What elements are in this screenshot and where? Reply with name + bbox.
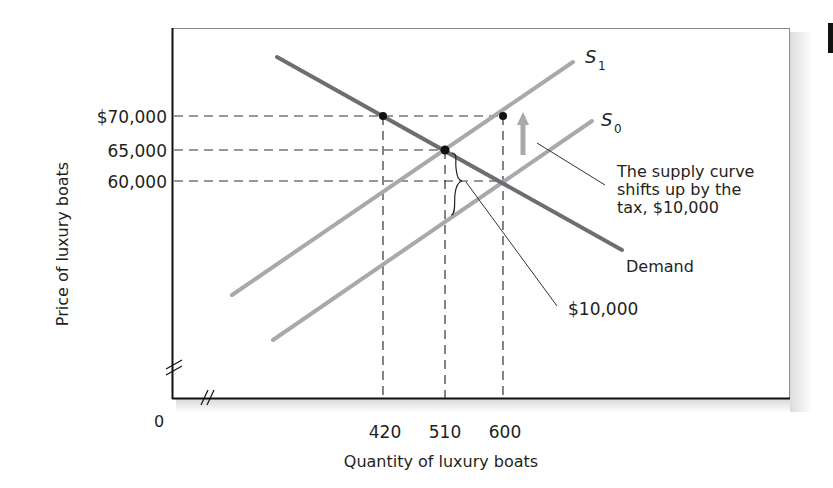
svg-text:S: S [601,109,612,130]
page-edge-mark [828,23,833,53]
svg-text:S: S [585,46,596,67]
point-510-65000 [441,146,450,155]
origin-label: 0 [154,412,164,431]
label-demand: Demand [626,257,694,276]
x-axis-label: Quantity of luxury boats [344,452,538,471]
svg-text:shifts up by the: shifts up by the [617,180,741,199]
svg-text:0: 0 [614,122,622,136]
point-600-70000 [499,112,507,120]
svg-text:1: 1 [598,59,606,73]
svg-text:The supply curve: The supply curve [616,162,754,181]
y-tick-65000: 65,000 [108,141,167,161]
chart-canvas: $70,000 65,000 60,000 Price of luxury bo… [0,0,833,488]
y-tick-60000: 60,000 [108,172,167,192]
supply-demand-tax-chart: $70,000 65,000 60,000 Price of luxury bo… [0,0,833,488]
x-tick-510: 510 [429,422,461,442]
y-tick-70000: $70,000 [97,107,167,127]
frame-shadow-bottom [176,399,796,413]
frame-shadow-right [790,32,812,412]
point-420-70000 [379,112,387,120]
x-tick-420: 420 [369,422,401,442]
brace-annotation: $10,000 [568,299,638,319]
x-tick-600: 600 [489,422,521,442]
y-axis-label: Price of luxury boats [53,162,72,326]
svg-text:tax, $10,000: tax, $10,000 [617,198,719,217]
